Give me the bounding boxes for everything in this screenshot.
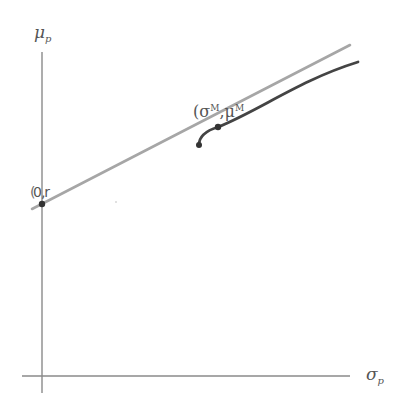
y-axis-label-sub: p bbox=[45, 33, 51, 44]
x-axis-label: σp bbox=[366, 364, 384, 386]
risk-free-point bbox=[39, 201, 45, 207]
tangent-line bbox=[32, 45, 350, 209]
frontier-start-point bbox=[196, 142, 202, 148]
tangency-label: (σM,μM bbox=[193, 102, 244, 121]
tangency-label-sup1: M bbox=[210, 103, 219, 113]
market-portfolio-point bbox=[215, 124, 221, 130]
x-axis-label-main: σ bbox=[366, 364, 378, 384]
speck bbox=[115, 201, 117, 203]
x-axis-label-sub: p bbox=[378, 375, 384, 386]
intercept-label: (0,r bbox=[30, 184, 49, 200]
intercept-label-text: 0,r bbox=[33, 184, 49, 200]
diagram-canvas bbox=[0, 0, 404, 411]
intercept-label-prefix: ( bbox=[30, 184, 34, 200]
y-axis-label: μp bbox=[34, 22, 51, 44]
tangency-label-mid: ,μ bbox=[219, 102, 234, 121]
tangency-label-sup2: M bbox=[235, 103, 244, 113]
y-axis-label-main: μ bbox=[34, 22, 45, 42]
tangency-label-open: (σ bbox=[193, 102, 210, 121]
